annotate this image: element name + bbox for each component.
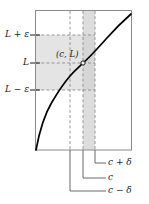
leader-c — [83, 150, 106, 178]
y-axis-label-lower: L − ε — [0, 85, 29, 94]
x-axis-label-c-plus-delta: c + δ — [108, 158, 132, 167]
limit-definition-figure: L + ε L L − ε (c, L) c + δ c c − δ — [0, 0, 149, 204]
leader-c-plus-delta — [95, 150, 106, 163]
point-marker-c-L — [81, 61, 85, 65]
x-axis-label-c: c — [108, 173, 113, 182]
y-axis-label-upper: L + ε — [0, 30, 29, 39]
y-axis-label-middle: L — [0, 58, 29, 67]
point-label-c-L: (c, L) — [56, 50, 78, 59]
leader-c-minus-delta — [70, 150, 106, 191]
x-axis-label-c-minus-delta: c − δ — [108, 186, 132, 195]
